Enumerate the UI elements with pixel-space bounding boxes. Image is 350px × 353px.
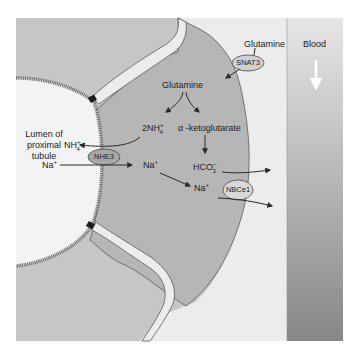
sodium-cell-label-1: Na+ — [143, 161, 158, 170]
bicarbonate-label: HCO−3 — [193, 163, 216, 172]
blood-label: Blood — [303, 40, 326, 49]
nbce1-label: NBCe1 — [223, 186, 253, 194]
alpha-ketoglutarate-label: α -ketoglutarate — [178, 124, 241, 133]
glutamine-blood-label: Glutamine — [244, 40, 285, 49]
snat3-label: SNAT3 — [232, 59, 264, 67]
glutamine-cell-label: Glutamine — [162, 81, 203, 90]
nhe3-label: NHE3 — [88, 153, 120, 161]
ammonium-cell-label: 2NH+4 — [142, 124, 163, 133]
sodium-cell-label-2: Na+ — [194, 184, 209, 193]
ammonium-lumen-label: NH+4 — [64, 141, 80, 150]
diagram-canvas — [0, 0, 350, 353]
sodium-lumen-label: Na+ — [42, 161, 57, 170]
